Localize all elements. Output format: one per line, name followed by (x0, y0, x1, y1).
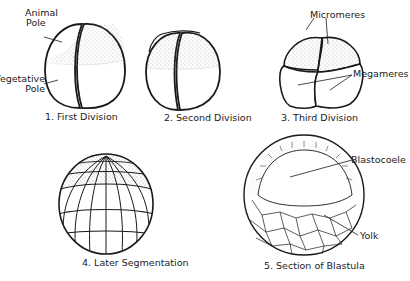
label-micromeres: Micromeres (310, 10, 365, 20)
label-vegetative-pole: Vegetative Pole (0, 74, 45, 94)
panel-later-segmentation (58, 150, 154, 254)
panel-second-division (146, 31, 220, 110)
label-megameres: Megameres (353, 69, 408, 79)
label-animal-pole: Animal Pole (25, 8, 58, 28)
label-animal-pole-line2: Pole (25, 18, 58, 28)
label-vegetative-pole-line2: Pole (0, 84, 45, 94)
caption-first-division: 1. First Division (45, 111, 118, 122)
cleavage-diagram (0, 0, 410, 281)
panel-blastula-section (244, 135, 364, 255)
caption-third-division: 3. Third Division (281, 112, 358, 123)
caption-blastula-section: 5. Section of Blastula (264, 260, 365, 271)
panel-first-division (44, 24, 125, 108)
caption-second-division: 2. Second Division (164, 112, 252, 123)
label-yolk: Yolk (360, 231, 379, 241)
caption-later-segmentation: 4. Later Segmentation (82, 257, 188, 268)
label-blastocoele: Blastocoele (351, 155, 406, 165)
panel-third-division (280, 18, 363, 108)
